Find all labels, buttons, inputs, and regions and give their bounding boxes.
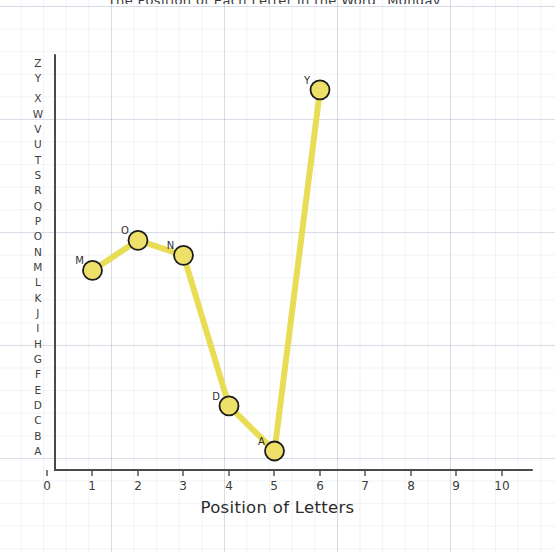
point-label-m: M — [75, 255, 84, 266]
y-tick-f: F — [28, 368, 48, 380]
line-chart: The Position of Each Letter in the Word … — [0, 0, 555, 552]
y-tick-c: C — [28, 414, 48, 426]
x-tick-3: 3 — [168, 479, 198, 493]
y-tick-r: R — [28, 184, 48, 196]
x-tick-8: 8 — [396, 479, 426, 493]
x-tick-0: 0 — [32, 479, 62, 493]
y-tick-h: H — [28, 338, 48, 350]
point-label-d: D — [212, 390, 220, 401]
y-tick-q: Q — [28, 200, 48, 212]
y-tick-l: L — [28, 276, 48, 288]
y-tick-e: E — [28, 384, 48, 396]
y-tick-a: A — [28, 445, 48, 457]
point-label-n: N — [167, 240, 174, 251]
y-tick-x: X — [28, 92, 48, 104]
x-tick-2: 2 — [123, 479, 153, 493]
x-tick-9: 9 — [441, 479, 471, 493]
data-point-o[interactable] — [129, 231, 148, 250]
y-tick-s: S — [28, 169, 48, 181]
y-tick-y: Y — [28, 72, 48, 84]
y-tick-t: T — [28, 154, 48, 166]
data-point-n[interactable] — [174, 246, 193, 265]
data-point-d[interactable] — [220, 396, 239, 415]
y-tick-m: M — [28, 261, 48, 273]
data-point-m[interactable] — [83, 261, 102, 280]
y-tick-k: K — [28, 292, 48, 304]
y-tick-v: V — [28, 123, 48, 135]
x-tick-4: 4 — [214, 479, 244, 493]
point-label-a: A — [258, 436, 265, 447]
x-tick-7: 7 — [350, 479, 380, 493]
point-label-y: Y — [304, 74, 310, 85]
x-tick-6: 6 — [305, 479, 335, 493]
x-tick-1: 1 — [77, 479, 107, 493]
y-tick-j: J — [28, 307, 48, 319]
y-tick-z: Z — [28, 57, 48, 69]
point-label-o: O — [121, 225, 129, 236]
y-tick-w: W — [28, 108, 48, 120]
x-tick-5: 5 — [259, 479, 289, 493]
data-point-a[interactable] — [265, 442, 284, 461]
data-point-y[interactable] — [311, 80, 330, 99]
y-tick-u: U — [28, 138, 48, 150]
x-tick-10: 10 — [487, 479, 517, 493]
y-tick-n: N — [28, 246, 48, 258]
y-tick-d: D — [28, 399, 48, 411]
y-tick-i: I — [28, 322, 48, 334]
y-tick-b: B — [28, 430, 48, 442]
chart-plot-area — [0, 0, 555, 552]
x-axis-title: Position of Letters — [0, 498, 555, 517]
data-point-markers — [83, 80, 330, 460]
y-tick-o: O — [28, 230, 48, 242]
data-line-monday — [93, 90, 321, 451]
y-tick-g: G — [28, 353, 48, 365]
y-tick-p: P — [28, 215, 48, 227]
